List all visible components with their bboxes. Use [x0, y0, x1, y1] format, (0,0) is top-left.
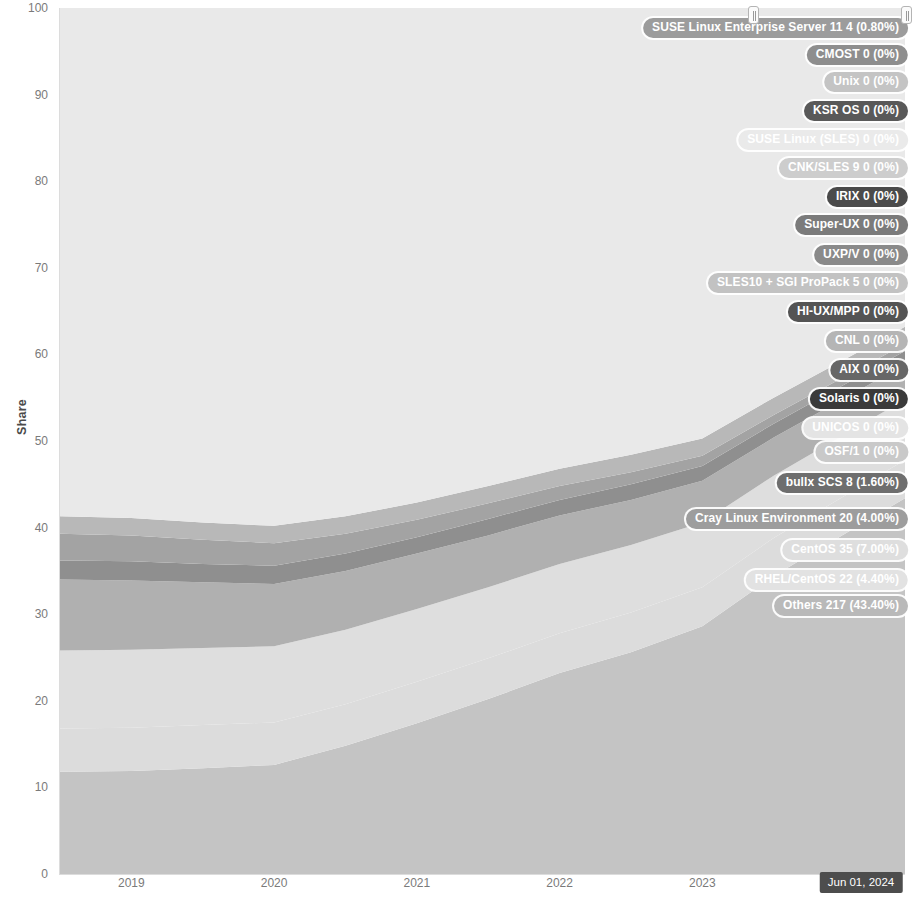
series-label[interactable]: CNL 0 (0%)	[826, 331, 908, 351]
series-label[interactable]: AIX 0 (0%)	[830, 360, 908, 380]
series-label[interactable]: HI-UX/MPP 0 (0%)	[788, 302, 908, 322]
x-axis-tick: 2020	[261, 876, 288, 890]
series-label[interactable]: CentOS 35 (7.00%)	[782, 540, 908, 560]
series-label[interactable]: SUSE Linux Enterprise Server 11 4 (0.80%…	[643, 18, 908, 38]
y-axis-tick: 90	[4, 88, 48, 102]
y-axis-tick: 30	[4, 607, 48, 621]
y-axis-tick: 100	[4, 1, 48, 15]
y-axis-tick: 20	[4, 694, 48, 708]
series-label[interactable]: SLES10 + SGI ProPack 5 0 (0%)	[708, 273, 908, 293]
range-slider-left-handle[interactable]	[748, 6, 759, 24]
series-label[interactable]: SUSE Linux (SLES) 0 (0%)	[738, 130, 908, 150]
x-axis-current-date-badge[interactable]: Jun 01, 2024	[820, 872, 903, 893]
x-axis-tick: 2022	[546, 876, 573, 890]
series-label[interactable]: UXP/V 0 (0%)	[814, 245, 908, 265]
range-slider-right-handle[interactable]	[901, 6, 912, 24]
series-label[interactable]: Unix 0 (0%)	[824, 72, 908, 92]
y-axis-tick: 60	[4, 347, 48, 361]
series-label[interactable]: CMOST 0 (0%)	[807, 45, 908, 65]
series-label[interactable]: Super-UX 0 (0%)	[795, 215, 908, 235]
series-label[interactable]: Others 217 (43.40%)	[774, 596, 908, 616]
series-label[interactable]: bullx SCS 8 (1.60%)	[777, 473, 908, 493]
series-label[interactable]: IRIX 0 (0%)	[827, 187, 908, 207]
x-axis-tick: 2021	[403, 876, 430, 890]
series-label[interactable]: RHEL/CentOS 22 (4.40%)	[746, 570, 908, 590]
series-label[interactable]: Cray Linux Environment 20 (4.00%)	[686, 509, 908, 529]
x-axis-tick: 2019	[118, 876, 145, 890]
y-axis-tick: 70	[4, 261, 48, 275]
x-axis-tick: 2023	[689, 876, 716, 890]
series-label[interactable]: CNK/SLES 9 0 (0%)	[779, 158, 908, 178]
y-axis-tick: 10	[4, 780, 48, 794]
os-share-stacked-area-chart: Share 1009080706050403020100 Others 217 …	[0, 0, 914, 904]
x-axis-line	[59, 874, 905, 875]
y-axis-tick: 40	[4, 521, 48, 535]
series-label[interactable]: UNICOS 0 (0%)	[803, 418, 908, 438]
y-axis-tick: 50	[4, 434, 48, 448]
y-axis-tick: 80	[4, 174, 48, 188]
series-label[interactable]: OSF/1 0 (0%)	[815, 442, 908, 462]
series-label[interactable]: KSR OS 0 (0%)	[804, 101, 908, 121]
y-axis-tick: 0	[4, 867, 48, 881]
series-label[interactable]: Solaris 0 (0%)	[810, 389, 908, 409]
